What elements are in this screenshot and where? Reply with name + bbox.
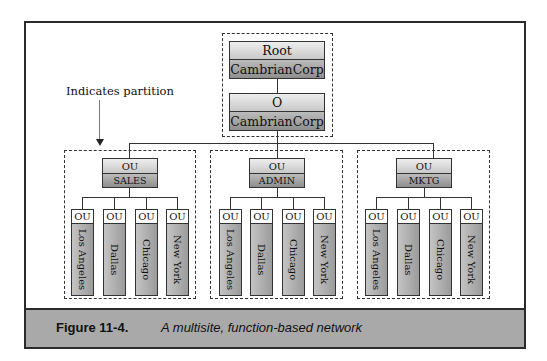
connector-sales-horizontal <box>82 197 178 198</box>
dept-node-sales: OU SALES <box>102 158 158 188</box>
figure-caption-bar: Figure 11-4. A multisite, function-based… <box>24 308 526 349</box>
connector-admin-horizontal <box>230 197 325 198</box>
annotation-arrow-line <box>99 100 100 141</box>
site-type: OU <box>283 210 304 224</box>
dept-node-admin: OU ADMIN <box>249 158 305 188</box>
site-type: OU <box>136 210 157 224</box>
site-name: Dallas <box>403 244 414 275</box>
site-type: OU <box>251 210 272 224</box>
site-node: OU Dallas <box>103 209 126 296</box>
site-name: Chicago <box>435 239 446 280</box>
site-node: OU Dallas <box>250 209 273 296</box>
connector-admin-la <box>230 197 231 209</box>
site-node: OU Dallas <box>397 209 420 296</box>
site-type: OU <box>220 210 241 224</box>
site-name: Dallas <box>256 244 267 275</box>
site-name: New York <box>319 235 330 284</box>
site-node: OU Los Angeles <box>219 209 242 296</box>
dept-node-mktg: OU MKTG <box>396 158 452 188</box>
connector-mktg-dallas <box>408 197 409 209</box>
site-node: OU New York <box>460 209 483 296</box>
dept-name: SALES <box>103 174 157 187</box>
dept-name: MKTG <box>397 174 451 187</box>
site-name: Los Angeles <box>225 229 236 290</box>
dept-type: OU <box>103 159 157 174</box>
connector-root-org <box>277 79 278 93</box>
org-node: O CambrianCorp <box>229 93 325 131</box>
dept-name: ADMIN <box>250 174 304 187</box>
site-type: OU <box>366 210 387 224</box>
site-type: OU <box>314 210 335 224</box>
site-name: Dallas <box>109 244 120 275</box>
site-name: Chicago <box>141 239 152 280</box>
arrow-down-icon <box>96 139 104 146</box>
site-type: OU <box>104 210 125 224</box>
figure-caption: A multisite, function-based network <box>161 320 362 335</box>
connector-admin-dallas <box>261 197 262 209</box>
dept-type: OU <box>397 159 451 174</box>
connector-sales-la <box>82 197 83 209</box>
org-node-type: O <box>230 94 324 112</box>
connector-admin-ny <box>324 197 325 209</box>
site-type: OU <box>461 210 482 224</box>
site-type: OU <box>430 210 451 224</box>
site-node: OU Chicago <box>429 209 452 296</box>
figure-number: Figure 11-4. <box>56 320 128 335</box>
connector-mktg-ny <box>471 197 472 209</box>
site-node: OU New York <box>166 209 189 296</box>
connector-mktg-la <box>376 197 377 209</box>
connector-mktg-horizontal <box>376 197 472 198</box>
connector-horizontal-main <box>129 143 434 144</box>
site-node: OU Los Angeles <box>365 209 388 296</box>
site-type: OU <box>398 210 419 224</box>
site-type: OU <box>72 210 93 224</box>
site-name: Chicago <box>288 239 299 280</box>
root-node-type: Root <box>230 42 324 60</box>
site-node: OU Chicago <box>135 209 158 296</box>
connector-mktg-chicago <box>440 197 441 209</box>
site-node: OU Chicago <box>282 209 305 296</box>
root-node-name: CambrianCorp <box>230 60 324 78</box>
connector-sales-chicago <box>146 197 147 209</box>
site-name: Los Angeles <box>77 229 88 290</box>
root-node: Root CambrianCorp <box>229 41 325 79</box>
site-name: New York <box>172 235 183 284</box>
dept-type: OU <box>250 159 304 174</box>
site-name: New York <box>466 235 477 284</box>
connector-sales-ny <box>177 197 178 209</box>
partition-annotation: Indicates partition <box>66 84 174 98</box>
site-name: Los Angeles <box>371 229 382 290</box>
site-node: OU New York <box>313 209 336 296</box>
site-node: OU Los Angeles <box>71 209 94 296</box>
connector-admin-chicago <box>293 197 294 209</box>
site-type: OU <box>167 210 188 224</box>
connector-sales-dallas <box>114 197 115 209</box>
org-node-name: CambrianCorp <box>230 112 324 130</box>
